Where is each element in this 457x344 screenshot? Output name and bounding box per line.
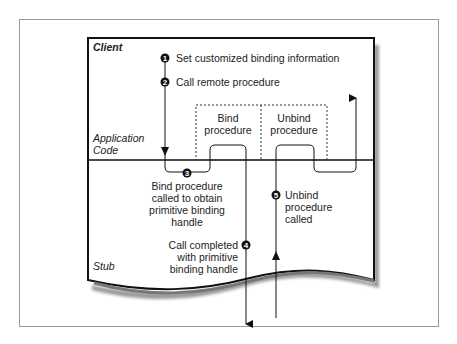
step-1-text: Set customized binding information (176, 52, 340, 64)
step-3-text-4: handle (171, 216, 203, 228)
unbind-procedure-label-1: Unbind (277, 112, 310, 124)
step-2-text: Call remote procedure (176, 76, 280, 88)
stub-label: Stub (93, 260, 115, 272)
step-5-text-2: procedure (285, 201, 332, 213)
client-label: Client (93, 41, 123, 53)
step-3-text-3: primitive binding (149, 204, 225, 216)
step-3-text-2: called to obtain (152, 192, 223, 204)
step-3-text-1: Bind procedure (151, 180, 222, 192)
step-4-text-1: Call completed (169, 239, 239, 251)
bind-procedure-label-1: Bind (217, 112, 238, 124)
svg-text:1: 1 (163, 54, 168, 63)
svg-text:3: 3 (185, 169, 190, 178)
bind-procedure-label-2: procedure (204, 124, 251, 136)
svg-text:4: 4 (244, 241, 249, 250)
application-code-label-1: Application (92, 132, 145, 144)
unbind-procedure-label-2: procedure (270, 124, 317, 136)
application-code-label-2: Code (93, 144, 118, 156)
svg-text:2: 2 (163, 78, 168, 87)
step-4-text-2: with primitive (176, 251, 238, 263)
step-4-text-3: binding handle (170, 263, 238, 275)
step-5-text-3: called (285, 213, 313, 225)
rpc-binding-diagram: 1 2 3 4 5 Client Application Code Stub S… (0, 0, 457, 344)
svg-text:5: 5 (274, 191, 279, 200)
step-5-text-1: Unbind (285, 189, 318, 201)
